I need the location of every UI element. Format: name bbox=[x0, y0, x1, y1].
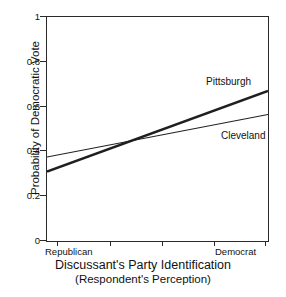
y-tick-label-1: 1 bbox=[14, 11, 40, 22]
x-axis-title: Discussant's Party Identification (Respo… bbox=[0, 258, 286, 286]
y-axis-title: Probability of Democratic Vote bbox=[29, 23, 41, 213]
y-tick-label-0.8: 0.8 bbox=[14, 56, 40, 67]
x-tick-label-republican: Republican bbox=[45, 246, 93, 257]
y-tick-label-0.6: 0.6 bbox=[14, 101, 40, 112]
x-axis-title-line1: Discussant's Party Identification bbox=[0, 258, 286, 272]
series-label-cleveland: Cleveland bbox=[221, 130, 265, 141]
y-tick-label-0.4: 0.4 bbox=[14, 145, 40, 156]
series-label-pittsburgh: Pittsburgh bbox=[206, 76, 251, 87]
y-tick-label-0.2: 0.2 bbox=[14, 190, 40, 201]
plot-lines bbox=[47, 17, 268, 241]
chart-figure: Probability of Democratic Vote 1 0.8 0.6… bbox=[0, 0, 286, 297]
plot-area bbox=[46, 16, 269, 242]
x-tick-label-democrat: Democrat bbox=[215, 246, 256, 257]
x-axis-title-line2: (Respondent's Perception) bbox=[0, 272, 286, 286]
y-tick-label-0: 0 bbox=[14, 235, 40, 246]
